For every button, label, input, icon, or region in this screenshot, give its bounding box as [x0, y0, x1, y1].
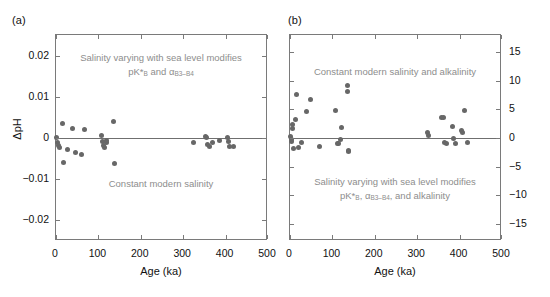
data-point: [112, 161, 117, 166]
x-axis-tick-top: [501, 35, 502, 39]
data-point: [191, 140, 196, 145]
y-axis-tick-opposite: [290, 138, 294, 139]
panel-a-zero-line: [56, 138, 266, 139]
panel-b-annotation-bottom: Salinity varying with sea level modifies…: [314, 175, 476, 203]
x-axis-tick-top: [417, 35, 418, 39]
alpha-term: and α: [148, 66, 175, 77]
data-point: [345, 83, 350, 88]
data-point: [102, 145, 107, 150]
data-point: [60, 121, 65, 126]
panel-b: (b) Constant modern salinity and alkalin…: [275, 0, 550, 297]
y-axis-tick-opposite: [262, 138, 266, 139]
data-point: [304, 109, 309, 114]
y-axis-tick-opposite: [262, 97, 266, 98]
x-axis-tick-top: [267, 35, 268, 39]
y-axis-tick: [496, 167, 500, 168]
y-axis-tick: [56, 56, 60, 57]
x-axis-tick-top: [56, 35, 57, 39]
data-point: [339, 125, 344, 130]
data-point: [294, 92, 299, 97]
x-tick-label: 300: [407, 247, 425, 259]
y-axis-tick-opposite: [262, 220, 266, 221]
data-point: [231, 144, 236, 149]
x-axis-tick-top: [226, 35, 227, 39]
y-tick-label: 5: [509, 102, 543, 114]
data-point: [308, 97, 313, 102]
panel-b-x-axis-title: Age (ka): [374, 265, 416, 277]
y-tick-label: 0.01: [7, 90, 49, 102]
x-axis-tick: [417, 235, 418, 239]
x-axis-tick-top: [141, 35, 142, 39]
x-tick-label: 500: [492, 247, 510, 259]
x-axis-tick: [501, 235, 502, 239]
panel-a-annotation-bottom: Constant modern salinity: [109, 177, 214, 191]
x-axis-tick: [332, 235, 333, 239]
alpha-term-b: , α: [360, 190, 371, 201]
x-tick-label: 100: [323, 247, 341, 259]
data-point: [82, 127, 87, 132]
data-point: [444, 141, 449, 146]
data-point: [70, 126, 75, 131]
data-point: [453, 141, 458, 146]
x-axis-tick: [267, 235, 268, 239]
panel-a-label: (a): [12, 14, 26, 26]
data-point: [61, 160, 66, 165]
panel-a-annotation-top-line2: pK*B and αB3–B4: [80, 65, 242, 79]
x-axis-tick: [290, 235, 291, 239]
panel-a: (a) Salinity varying with sea level modi…: [0, 0, 275, 297]
data-point: [346, 148, 351, 153]
panel-b-annotation-top: Constant modern salinity and alkalinity: [314, 65, 476, 79]
y-tick-label: −15: [509, 217, 543, 229]
data-point: [333, 108, 338, 113]
figure-container: (a) Salinity varying with sea level modi…: [0, 0, 550, 297]
y-axis-tick-opposite: [290, 52, 294, 53]
data-point: [57, 145, 62, 150]
panel-b-annotation-bottom-line1: Salinity varying with sea level modifies: [314, 175, 476, 189]
y-axis-tick-opposite: [290, 224, 294, 225]
x-tick-label: 100: [89, 247, 107, 259]
x-tick-label: 200: [131, 247, 149, 259]
data-point: [336, 141, 341, 146]
y-axis-tick: [496, 81, 500, 82]
y-tick-label: −5: [509, 160, 543, 172]
alpha-subscript: B3–B4: [174, 70, 193, 77]
data-point: [450, 124, 455, 129]
y-axis-tick: [496, 224, 500, 225]
y-axis-tick-opposite: [290, 109, 294, 110]
x-axis-tick: [98, 235, 99, 239]
x-axis-tick-top: [460, 35, 461, 39]
x-axis-tick-top: [98, 35, 99, 39]
y-axis-tick: [56, 138, 60, 139]
x-axis-tick: [141, 235, 142, 239]
data-point: [296, 145, 301, 150]
y-axis-tick-opposite: [290, 167, 294, 168]
x-axis-tick-top: [290, 35, 291, 39]
y-axis-tick-opposite: [262, 179, 266, 180]
x-tick-label: 400: [216, 247, 234, 259]
data-point: [465, 140, 470, 145]
x-axis-tick-top: [183, 35, 184, 39]
data-point: [79, 152, 84, 157]
x-axis-tick: [183, 235, 184, 239]
x-tick-label: 500: [258, 247, 276, 259]
x-axis-tick: [226, 235, 227, 239]
data-point: [462, 108, 467, 113]
y-axis-tick-opposite: [290, 81, 294, 82]
y-tick-label: 15: [509, 45, 543, 57]
data-point: [338, 137, 343, 142]
x-axis-tick-top: [332, 35, 333, 39]
data-point: [290, 126, 295, 131]
y-axis-tick: [496, 195, 500, 196]
y-axis-tick: [496, 109, 500, 110]
y-tick-label: −0.02: [7, 213, 49, 225]
x-tick-label: 400: [450, 247, 468, 259]
y-tick-label: −0.01: [7, 172, 49, 184]
y-axis-tick: [56, 97, 60, 98]
panel-b-annotation-bottom-line2: pK*B, αB3–B4, and alkalinity: [314, 189, 476, 203]
y-axis-tick-opposite: [290, 195, 294, 196]
y-tick-label: −10: [509, 188, 543, 200]
alkalinity-term: , and alkalinity: [390, 190, 450, 201]
data-point: [217, 138, 222, 143]
y-axis-tick: [56, 179, 60, 180]
panel-a-plot-area: Salinity varying with sea level modifies…: [55, 34, 267, 240]
